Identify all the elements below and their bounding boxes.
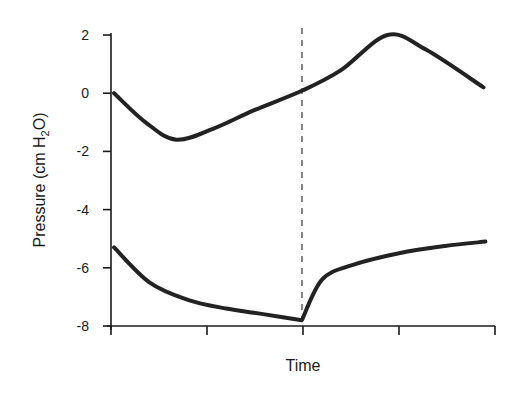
y-tick-label: -4 [77, 202, 90, 218]
axes: 20-2-4-6-8 [77, 27, 495, 335]
y-axis-title-end: O) [31, 112, 48, 130]
y-axis-title: Pressure (cm H2O) [31, 112, 51, 247]
pressure-chart: 20-2-4-6-8 Time Pressure (cm H2O) [0, 0, 521, 394]
y-tick-label: -6 [77, 260, 90, 276]
x-axis-title: Time [286, 357, 321, 374]
series-line-upper [114, 34, 483, 140]
y-tick-label: 2 [81, 27, 89, 43]
chart-marks [114, 28, 485, 322]
y-axis-title-main: Pressure (cm H [31, 136, 48, 247]
y-tick-label: -2 [77, 143, 90, 159]
y-tick-label: -8 [77, 318, 90, 334]
series-line-lower [114, 242, 485, 321]
y-tick-label: 0 [81, 85, 89, 101]
